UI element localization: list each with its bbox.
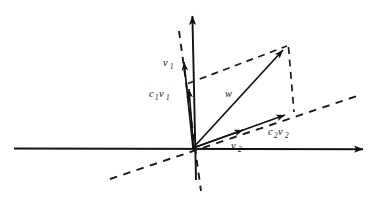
label-v1: v 1 xyxy=(163,57,174,71)
label-c1v1-coefficient: c xyxy=(149,88,154,99)
vector-v1 xyxy=(184,62,193,148)
label-c2v2: c 2 v 2 xyxy=(268,126,289,140)
vector-decomposition-figure: v 1 c 1 v 1 w v 2 c 2 v 2 xyxy=(0,0,380,197)
label-v2-base: v xyxy=(231,140,236,151)
horizontal-axis xyxy=(14,149,363,150)
label-v2: v 2 xyxy=(231,140,242,154)
dashed-projection-right xyxy=(289,47,295,112)
dashed-projection-top xyxy=(188,46,287,84)
figure-canvas: v 1 c 1 v 1 w v 2 c 2 v 2 xyxy=(0,0,380,197)
label-v1-subscript: 1 xyxy=(170,63,174,71)
label-c1v1: c 1 v 1 xyxy=(149,88,170,102)
shallow-dashed-subspace-line xyxy=(110,96,357,179)
label-c1v1-vector-subscript: 1 xyxy=(166,94,170,102)
label-w-base: w xyxy=(225,88,232,99)
label-w: w xyxy=(225,88,232,99)
label-v1-base: v xyxy=(163,57,168,68)
label-c2v2-vector-subscript: 2 xyxy=(285,132,289,140)
vertical-axis xyxy=(192,16,196,180)
label-v2-subscript: 2 xyxy=(238,146,242,154)
label-c1v1-vector: v xyxy=(159,88,164,99)
label-c2v2-vector: v xyxy=(278,126,283,137)
label-c2v2-coefficient: c xyxy=(268,126,273,137)
dashed-lines-group xyxy=(110,31,357,191)
